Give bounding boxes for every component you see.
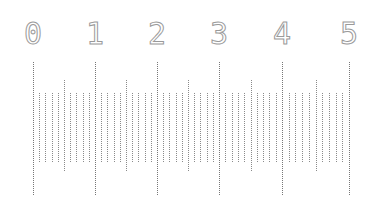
ruler-label-4: 4: [270, 16, 294, 52]
minor-tick: [329, 93, 330, 162]
major-tick: [33, 62, 34, 195]
minor-tick: [169, 93, 170, 162]
minor-tick: [145, 93, 146, 162]
minor-tick: [176, 93, 177, 162]
minor-tick: [263, 93, 264, 162]
minor-tick: [194, 93, 195, 162]
minor-tick: [114, 93, 115, 162]
ruler-label-0: 0: [21, 16, 45, 52]
minor-tick: [309, 93, 310, 162]
minor-tick: [83, 93, 84, 162]
minor-tick: [70, 93, 71, 162]
ruler-label-5: 5: [337, 16, 361, 52]
ruler-label-1: 1: [83, 16, 107, 52]
minor-tick: [232, 93, 233, 162]
ruler-label-2: 2: [145, 16, 169, 52]
minor-tick: [58, 93, 59, 162]
minor-tick: [138, 93, 139, 162]
half-tick: [251, 80, 252, 172]
minor-tick: [336, 93, 337, 162]
major-tick: [219, 62, 220, 195]
minor-tick: [45, 93, 46, 162]
minor-tick: [120, 93, 121, 162]
minor-tick: [276, 93, 277, 162]
minor-tick: [207, 93, 208, 162]
minor-tick: [322, 93, 323, 162]
minor-tick: [342, 93, 343, 162]
minor-tick: [182, 93, 183, 162]
minor-tick: [269, 93, 270, 162]
minor-tick: [213, 93, 214, 162]
minor-tick: [52, 93, 53, 162]
half-tick: [126, 80, 127, 172]
minor-tick: [76, 93, 77, 162]
minor-tick: [238, 93, 239, 162]
minor-tick: [225, 93, 226, 162]
minor-tick: [89, 93, 90, 162]
major-tick: [95, 62, 96, 195]
minor-tick: [289, 93, 290, 162]
minor-tick: [163, 93, 164, 162]
minor-tick: [244, 93, 245, 162]
major-tick: [282, 62, 283, 195]
minor-tick: [101, 93, 102, 162]
half-tick: [64, 80, 65, 172]
minor-tick: [200, 93, 201, 162]
half-tick: [316, 80, 317, 172]
minor-tick: [257, 93, 258, 162]
minor-tick: [151, 93, 152, 162]
minor-tick: [107, 93, 108, 162]
minor-tick: [302, 93, 303, 162]
dotted-ruler: 0 1 2 3 4 5: [0, 0, 366, 202]
major-tick: [349, 62, 350, 195]
minor-tick: [132, 93, 133, 162]
ruler-label-3: 3: [207, 16, 231, 52]
major-tick: [157, 62, 158, 195]
half-tick: [188, 80, 189, 172]
minor-tick: [39, 93, 40, 162]
minor-tick: [295, 93, 296, 162]
